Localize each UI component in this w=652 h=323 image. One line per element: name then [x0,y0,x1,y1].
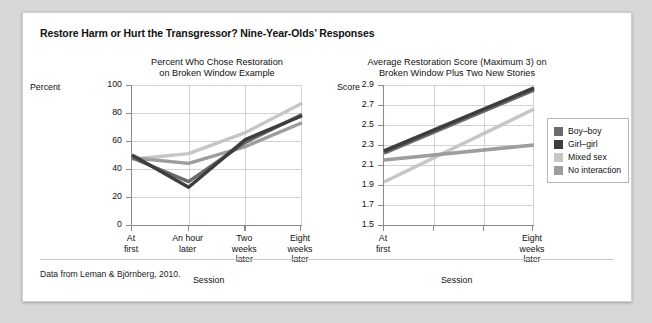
left-plot-area [131,85,302,226]
x-tick-label-line: Eight [502,233,562,244]
y-tick-label: 2.1 [341,159,374,169]
y-tick-mark [378,125,383,126]
y-tick-mark [126,197,131,198]
legend-label-mixed-sex: Mixed sex [568,152,607,162]
y-tick-mark [126,141,131,142]
legend-swatch-girl-girl [554,140,563,149]
right-chart-title-line2: Broken Window Plus Two New Stories [357,68,557,79]
y-tick-label: 1.7 [341,199,374,209]
right-chart-lines [384,85,534,225]
y-tick-mark [126,169,131,170]
chart-panel-left: Percent Who Chose Restoration on Broken … [85,57,333,262]
x-tick-label-line: first [353,244,413,255]
y-tick-mark [378,165,383,166]
x-tick-label-line: weeks [214,244,274,255]
left-chart-title: Percent Who Chose Restoration on Broken … [109,57,325,79]
x-tick-label: At first [353,233,413,254]
x-tick-label-line: At [353,233,413,244]
x-tick-mark [383,226,384,231]
x-tick-label: At first [101,233,161,254]
y-tick-label: 40 [85,163,122,173]
series-line-girl-girl [132,116,302,187]
x-tick-mark [532,226,533,231]
y-tick-label: 20 [85,191,122,201]
y-tick-label: 2.3 [341,139,374,149]
x-tick-label-line: first [101,244,161,255]
legend-swatch-no-interaction [554,166,563,175]
x-tick-label-line: Eight [270,233,330,244]
x-tick-label-line: An hour [158,233,218,244]
y-tick-mark [126,113,131,114]
figure-card: Restore Harm or Hurt the Transgressor? N… [22,12,632,302]
x-tick-mark [131,226,132,231]
y-tick-label: 2.9 [341,79,374,89]
left-chart-lines [132,85,302,225]
right-x-axis-label: Session [441,275,472,285]
y-tick-label: 60 [85,135,122,145]
x-tick-mark [300,226,301,231]
y-tick-mark [378,85,383,86]
legend-item-boy-boy: Boy–boy [554,125,621,137]
x-tick-mark [483,226,484,231]
series-line-boy-boy [132,114,302,181]
chart-panel-right: Average Restoration Score (Maximum 3) on… [341,57,556,262]
source-note: Data from Leman & Björnberg, 2010. [40,269,180,279]
y-tick-label: 2.5 [341,119,374,129]
legend-swatch-boy-boy [554,127,563,136]
y-tick-label: 1.9 [341,179,374,189]
right-plot-area [383,85,534,226]
y-tick-mark [378,145,383,146]
left-chart-title-line2: on Broken Window Example [109,68,325,79]
x-tick-label: An hour later [158,233,218,254]
x-tick-label-line: Two [214,233,274,244]
x-tick-mark [244,226,245,231]
x-tick-label-line: later [158,244,218,255]
y-tick-label: 100 [85,79,122,89]
x-tick-label-line: weeks [270,244,330,255]
legend-label-no-interaction: No interaction [568,165,621,175]
left-x-axis-label: Session [193,275,224,285]
y-tick-label: 2.7 [341,99,374,109]
x-tick-mark [433,226,434,231]
y-tick-label: 1.5 [341,219,374,229]
x-tick-mark [188,226,189,231]
left-chart-title-line1: Percent Who Chose Restoration [109,57,325,68]
legend-item-girl-girl: Girl–girl [554,138,621,150]
y-tick-mark [378,105,383,106]
chart-legend: Boy–boy Girl–girl Mixed sex No interacti… [547,118,629,183]
y-tick-mark [378,185,383,186]
divider [40,259,614,260]
right-chart-title-line1: Average Restoration Score (Maximum 3) on [357,57,557,68]
figure-title: Restore Harm or Hurt the Transgressor? N… [40,27,374,39]
series-line-mixed-sex [132,103,302,159]
y-tick-mark [126,85,131,86]
legend-swatch-mixed-sex [554,153,563,162]
legend-label-girl-girl: Girl–girl [568,139,598,149]
y-tick-label: 80 [85,107,122,117]
legend-item-mixed-sex: Mixed sex [554,151,621,163]
legend-label-boy-boy: Boy–boy [568,126,601,136]
left-y-axis-label: Percent [30,82,60,92]
right-chart-title: Average Restoration Score (Maximum 3) on… [357,57,557,79]
legend-item-no-interaction: No interaction [554,164,621,176]
x-tick-label-line: At [101,233,161,244]
y-tick-mark [378,205,383,206]
y-tick-label: 0 [85,219,122,229]
x-tick-label-line: weeks [502,244,562,255]
